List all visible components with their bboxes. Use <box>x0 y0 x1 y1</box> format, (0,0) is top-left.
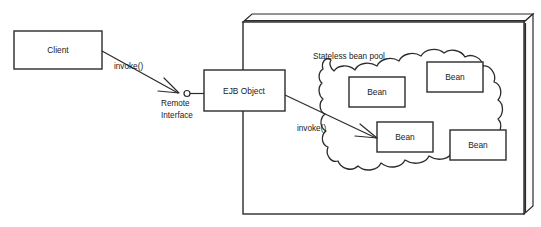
bean-label-4: Bean <box>468 140 488 150</box>
client-node: Client <box>14 31 102 69</box>
client-label: Client <box>47 45 69 55</box>
client-invoke-arrowhead <box>158 78 179 93</box>
bean-label-3: Bean <box>395 132 415 142</box>
bean-node-3: Bean <box>377 122 433 152</box>
remote-interface-lollipop <box>184 91 190 97</box>
bean-node-2: Bean <box>427 62 483 92</box>
ejb-invoke-label: invoke() <box>297 124 326 133</box>
bean-node-4: Bean <box>450 130 506 160</box>
bean-label-2: Bean <box>445 72 465 82</box>
client-invoke-label: invoke() <box>114 62 143 71</box>
bean-label-1: Bean <box>367 87 387 97</box>
ejb-object-node: EJB Object <box>204 70 285 111</box>
ejb-architecture-diagram: Stateless bean pool Bean Bean Bean Bean … <box>0 0 541 227</box>
bean-pool-label: Stateless bean pool <box>313 52 385 61</box>
diagram-canvas: Stateless bean pool Bean Bean Bean Bean … <box>0 0 541 227</box>
client-invoke-line <box>102 51 178 93</box>
remote-interface-label-line1: Remote <box>161 99 190 108</box>
ejb-container-node <box>243 14 533 214</box>
container-front-face <box>243 22 524 214</box>
ejb-object-label: EJB Object <box>223 86 266 96</box>
bean-node-1: Bean <box>349 77 405 107</box>
remote-interface-label-line2: Interface <box>161 111 193 120</box>
client-to-remote-edge: invoke() Remote Interface <box>102 51 204 120</box>
